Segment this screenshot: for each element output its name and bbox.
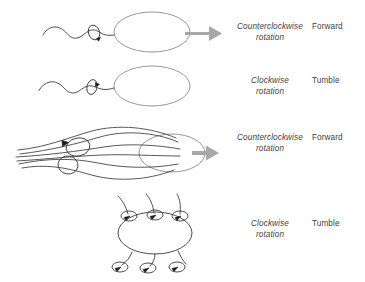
cell-body-ellipse <box>118 212 192 254</box>
cell-body-ellipse <box>114 12 190 52</box>
diagram-row-peritrichous-ccw: Counterclockwise rotation Forward <box>0 116 365 188</box>
diagram-row-monotrichous-cw: Clockwise rotation Tumble <box>0 58 365 116</box>
rotation-label: Clockwise rotation <box>222 76 318 97</box>
row-1-illustration <box>0 0 230 62</box>
rotation-label-line-1: Counterclockwise <box>222 22 318 33</box>
row-3-illustration <box>0 116 230 188</box>
row-4-illustration <box>0 188 230 282</box>
flagellum-filament <box>39 82 114 93</box>
rotation-label-line-1: Counterclockwise <box>222 133 318 144</box>
rotation-arrowhead <box>97 37 101 41</box>
flagellum-filament <box>43 27 114 38</box>
diagram-row-monotrichous-ccw: Counterclockwise rotation Forward <box>0 0 365 62</box>
rotation-label-line-2: rotation <box>222 87 318 98</box>
forward-motion-arrow <box>185 26 222 41</box>
outcome-label: Tumble <box>312 219 365 230</box>
rotation-label-line-1: Clockwise <box>222 219 318 230</box>
outcome-label: Forward <box>312 133 365 144</box>
diagram-row-peritrichous-cw: Clockwise rotation Tumble <box>0 188 365 282</box>
rotation-label-line-2: rotation <box>222 144 318 155</box>
outcome-label: Forward <box>312 22 365 33</box>
rotation-loop-upper <box>64 136 91 159</box>
rotation-loop <box>85 79 98 96</box>
rotation-label: Counterclockwise rotation <box>222 22 318 43</box>
cell-body-ellipse <box>114 66 190 106</box>
rotation-label: Clockwise rotation <box>222 219 318 240</box>
rotation-label-line-2: rotation <box>222 33 318 44</box>
row-2-illustration <box>0 58 230 116</box>
flagellum-filament <box>122 252 132 265</box>
rotation-label-line-2: rotation <box>222 230 318 241</box>
outcome-label: Tumble <box>312 76 365 87</box>
flagellar-rotation-diagram: Counterclockwise rotation Forward Clockw… <box>0 0 365 282</box>
rotation-label: Counterclockwise rotation <box>222 133 318 154</box>
rotation-label-line-1: Clockwise <box>222 76 318 87</box>
